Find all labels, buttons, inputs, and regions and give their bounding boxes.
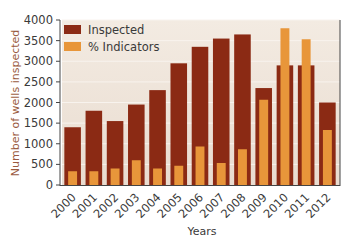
y-tick-label-left: 0 xyxy=(46,178,53,192)
bar-percent-indicators xyxy=(153,169,162,186)
y-tick-label-left: 2500 xyxy=(24,75,53,89)
bar-percent-indicators xyxy=(217,163,226,185)
y-axis-label-left: Number of wells inspected xyxy=(9,30,22,177)
legend-label-inspected: Inspected xyxy=(88,23,144,37)
y-tick-label-left: 3000 xyxy=(24,54,53,68)
chart: 05001000150020002500300035004000 2000200… xyxy=(0,0,342,240)
bar-percent-indicators xyxy=(280,28,289,185)
bar-percent-indicators xyxy=(302,39,311,185)
bar-percent-indicators xyxy=(68,171,77,185)
x-axis-ticks: 2000200120022003200420052006200720082009… xyxy=(48,190,333,221)
legend-swatch-percent xyxy=(64,42,81,51)
bar-percent-indicators xyxy=(132,160,141,185)
y-tick-label-left: 1000 xyxy=(24,137,53,151)
y-tick-label-left: 500 xyxy=(31,157,53,171)
x-axis-label: Years xyxy=(186,225,216,238)
bar-percent-indicators xyxy=(174,166,183,185)
left-axis-ticks: 05001000150020002500300035004000 xyxy=(24,13,60,192)
bar-percent-indicators xyxy=(196,147,205,186)
bar-percent-indicators xyxy=(259,100,268,185)
legend-label-percent: % Indicators xyxy=(88,40,159,54)
bar-percent-indicators xyxy=(323,130,332,185)
bar-percent-indicators xyxy=(111,169,120,186)
y-tick-label-left: 3500 xyxy=(24,34,53,48)
y-tick-label-left: 1500 xyxy=(24,116,53,130)
bar-percent-indicators xyxy=(89,171,98,185)
y-tick-label-left: 2000 xyxy=(24,96,53,110)
bar-percent-indicators xyxy=(238,149,247,185)
y-tick-label-left: 4000 xyxy=(24,13,53,27)
legend-swatch-inspected xyxy=(64,25,81,34)
x-tick-label: 2012 xyxy=(303,190,334,221)
